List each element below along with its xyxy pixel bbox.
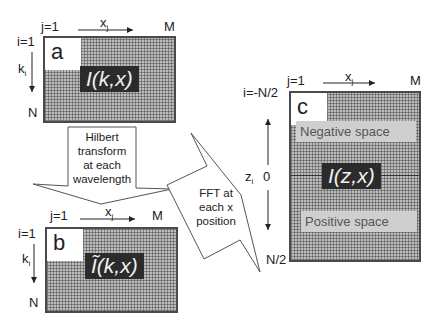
col-axis-sub: j xyxy=(352,77,354,86)
fft-line-3: position xyxy=(186,214,246,228)
row-end-label: N xyxy=(28,106,37,119)
matrix-b: b Ĩ(k,x) xyxy=(45,227,178,313)
intensity-label-b: Ĩ(k,x) xyxy=(85,253,144,279)
row-start-label: i=1 xyxy=(17,35,35,48)
row-start-label: i=1 xyxy=(18,227,36,240)
col-axis-sub: j xyxy=(112,212,114,221)
row-mid-label: 0 xyxy=(263,170,270,183)
col-axis-label: xj xyxy=(100,16,108,32)
panel-letter-a: a xyxy=(45,38,81,70)
col-axis-label: xj xyxy=(345,70,353,86)
col-end-label: M xyxy=(410,74,421,87)
row-end-label: N/2 xyxy=(266,253,286,266)
row-axis-label: ki xyxy=(22,252,30,268)
hilbert-arrow-label: Hilbert transform at each wavelength xyxy=(68,130,136,186)
matrix-c: c Negative space I(z,x) Positive space xyxy=(289,91,421,262)
row-start-label: i=-N/2 xyxy=(243,86,278,99)
col-start-label: j=1 xyxy=(41,20,59,33)
fft-arrow-label: FFT at each x position xyxy=(186,186,246,228)
row-axis-sub: i xyxy=(252,177,254,186)
col-start-label: j=1 xyxy=(50,209,68,222)
matrix-a: a I(k,x) xyxy=(43,36,176,123)
col-end-label: M xyxy=(152,209,163,222)
hilbert-line-1: Hilbert xyxy=(68,130,136,144)
intensity-label-c: I(z,x) xyxy=(322,163,381,189)
row-end-label: N xyxy=(29,296,38,309)
negative-space-label: Negative space xyxy=(296,121,416,142)
col-axis-sub: j xyxy=(107,23,109,32)
fft-line-1: FFT at xyxy=(186,186,246,200)
hilbert-line-2: transform xyxy=(68,144,136,158)
hilbert-line-4: wavelength xyxy=(68,172,136,186)
row-axis-label: ki xyxy=(18,62,26,78)
row-axis-sub: i xyxy=(25,69,27,78)
panel-letter-b: b xyxy=(47,229,83,261)
col-start-label: j=1 xyxy=(287,74,305,87)
hilbert-line-3: at each xyxy=(68,158,136,172)
positive-space-label: Positive space xyxy=(301,211,417,232)
col-end-label: M xyxy=(164,20,175,33)
fft-line-2: each x xyxy=(186,200,246,214)
intensity-label-a: I(k,x) xyxy=(80,66,139,92)
row-axis-label: zi xyxy=(245,170,253,186)
col-axis-label: xj xyxy=(105,205,113,221)
row-axis-sub: i xyxy=(29,259,31,268)
